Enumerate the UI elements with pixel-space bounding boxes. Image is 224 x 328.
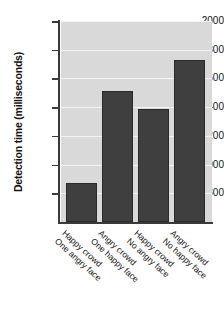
- bar: [66, 183, 97, 222]
- gridline: [61, 21, 212, 22]
- y-axis-tick: [52, 21, 60, 23]
- chart-figure: Detection time (milliseconds) 8001000120…: [0, 0, 224, 328]
- gridline: [61, 50, 212, 51]
- y-axis-tick: [52, 107, 60, 109]
- y-axis-tick: [52, 193, 60, 195]
- y-axis-tick: [52, 78, 60, 80]
- bar: [174, 60, 205, 222]
- x-axis-line: [58, 222, 213, 224]
- y-axis-tick: [52, 50, 60, 52]
- y-axis-tick: [52, 136, 60, 138]
- bar: [138, 109, 169, 222]
- y-axis-title: Detection time (milliseconds): [12, 22, 24, 222]
- y-axis-tick: [52, 165, 60, 167]
- plot-area: [61, 21, 212, 222]
- bar: [102, 91, 133, 222]
